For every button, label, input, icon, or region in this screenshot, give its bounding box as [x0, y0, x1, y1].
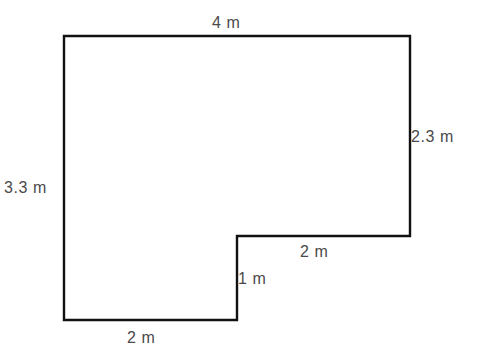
- dimension-label-top: 4 m: [212, 14, 240, 32]
- l-shape-polygon: [0, 0, 477, 353]
- dimension-label-notch-vertical: 1 m: [238, 270, 266, 288]
- dimension-label-bottom-right: 2 m: [300, 243, 328, 261]
- geometry-figure: 4 m 2.3 m 2 m 1 m 2 m 3.3 m: [0, 0, 477, 353]
- dimension-label-left: 3.3 m: [4, 179, 47, 197]
- polygon-outline: [64, 36, 410, 320]
- dimension-label-bottom: 2 m: [127, 329, 155, 347]
- dimension-label-right: 2.3 m: [411, 128, 454, 146]
